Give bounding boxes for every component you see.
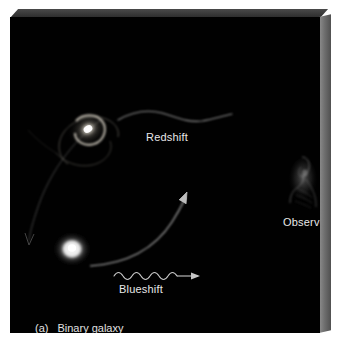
orbit-arrow-approaching	[90, 192, 187, 266]
panel-right-bevel	[319, 14, 331, 333]
label-observer: Observer	[283, 216, 320, 228]
figure-caption: (a)Binary galaxy	[35, 322, 124, 333]
redshift-wave	[118, 111, 232, 121]
spiral-galaxy	[28, 103, 118, 166]
label-blueshift: Blueshift	[119, 283, 163, 295]
label-redshift: Redshift	[146, 131, 188, 143]
elliptical-galaxy	[53, 232, 91, 266]
sky-illustration	[10, 17, 320, 333]
observer-silhouette	[289, 157, 317, 208]
sky-panel: Redshift Blueshift Observer (a)Binary ga…	[10, 17, 320, 333]
figure-root: Redshift Blueshift Observer (a)Binary ga…	[0, 0, 347, 352]
caption-tag: (a)	[35, 322, 48, 333]
blueshift-wave	[114, 273, 200, 280]
caption-text: Binary galaxy	[57, 322, 123, 333]
